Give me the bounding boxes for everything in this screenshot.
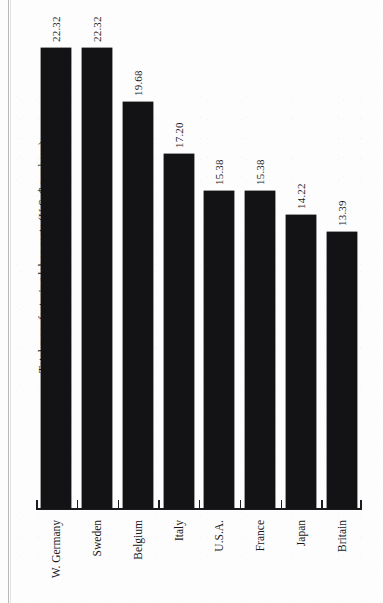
category-label-text: W. Germany [50, 520, 62, 578]
bar [327, 232, 357, 508]
bar-value-label: 22.32 [91, 16, 103, 42]
axis-tick [199, 500, 200, 509]
axis-tick [158, 500, 159, 509]
category-label-text: Japan [295, 520, 307, 546]
bar-value-label: 19.68 [132, 71, 144, 97]
axis-tick [281, 500, 282, 509]
bar-group: 22.32W. Germany [41, 0, 71, 603]
bar-group: 19.68Belgium [123, 0, 153, 603]
bar-group: 13.39Britain [327, 0, 357, 603]
bar [164, 154, 194, 508]
bar [123, 102, 153, 508]
bar-group: 14.22Japan [286, 0, 316, 603]
axis-tick [321, 500, 322, 509]
bar-value-label: 22.32 [50, 16, 62, 42]
bar-series: 22.32W. Germany22.32Sweden19.68Belgium17… [0, 0, 383, 603]
bar [204, 191, 234, 508]
axis-tick [240, 500, 241, 509]
bar-value-label: 15.38 [213, 159, 225, 185]
category-label-text: Italy [173, 520, 185, 541]
category-label-text: Britain [336, 520, 348, 552]
bar [41, 48, 71, 508]
category-label-text: U.S.A. [213, 520, 225, 552]
category-label-text: France [254, 520, 266, 551]
axis-tick [118, 500, 119, 509]
chart-page: Total manufacturing labor costs (U.S. $ … [0, 0, 383, 603]
bar-group: 17.20Italy [164, 0, 194, 603]
bar [286, 215, 316, 508]
bar-group: 22.32Sweden [82, 0, 112, 603]
bar-group: 15.38U.S.A. [204, 0, 234, 603]
bar [82, 48, 112, 508]
bar [245, 191, 275, 508]
category-label-text: Belgium [132, 520, 144, 560]
bar-value-label: 13.39 [336, 200, 348, 226]
axis-tick [77, 500, 78, 509]
bar-value-label: 17.20 [173, 122, 185, 148]
bar-group: 15.38France [245, 0, 275, 603]
bar-value-label: 14.22 [295, 183, 307, 209]
bar-value-label: 15.38 [254, 159, 266, 185]
category-label-text: Sweden [91, 520, 103, 556]
